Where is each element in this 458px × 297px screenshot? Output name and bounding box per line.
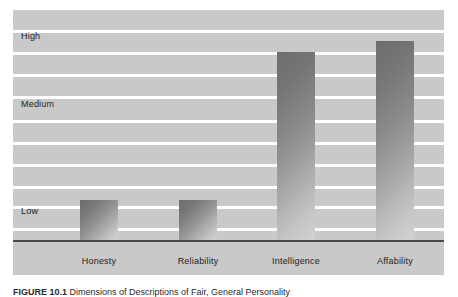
- y-axis-label-high: High: [21, 31, 40, 41]
- chart-plot-area: High Medium Low Honesty Reliability Inte…: [13, 10, 444, 275]
- figure-caption: FIGURE 10.1 Dimensions of Descriptions o…: [13, 287, 444, 297]
- x-axis-label-affability: Affability: [356, 256, 434, 266]
- figure-container: High Medium Low Honesty Reliability Inte…: [0, 0, 458, 297]
- figure-caption-text: Dimensions of Descriptions of Fair, Gene…: [67, 287, 290, 297]
- x-axis-label-reliability: Reliability: [159, 256, 237, 266]
- bar-affability[interactable]: [376, 41, 414, 240]
- bar-reliability[interactable]: [179, 200, 217, 240]
- bar-intelligence[interactable]: [277, 52, 315, 240]
- x-axis-line: [13, 240, 444, 242]
- y-axis-label-medium: Medium: [21, 99, 54, 109]
- gridline: [13, 30, 444, 33]
- y-axis-label-low: Low: [21, 206, 38, 216]
- x-axis-label-intelligence: Intelligence: [257, 256, 335, 266]
- x-axis-label-honesty: Honesty: [60, 256, 138, 266]
- figure-caption-label: FIGURE 10.1: [13, 287, 67, 297]
- bar-honesty[interactable]: [80, 200, 118, 240]
